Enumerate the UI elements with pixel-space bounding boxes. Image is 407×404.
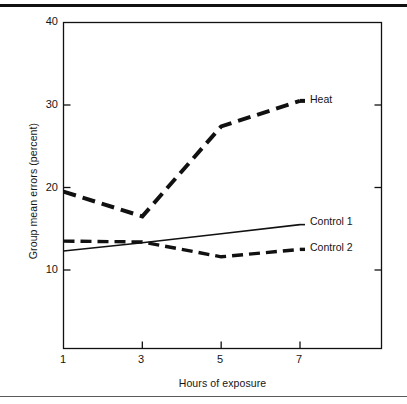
x-tick-label-7: 7 — [287, 353, 311, 365]
x-tick-label-1: 1 — [51, 353, 75, 365]
x-tick-label-5: 5 — [208, 353, 232, 365]
line-chart-plot — [0, 0, 407, 404]
series-line-heat — [64, 101, 301, 217]
plot-frame — [64, 23, 382, 349]
series-label-heat: Heat — [310, 93, 332, 105]
y-tick-label-20: 20 — [32, 181, 58, 193]
series-lines — [64, 101, 306, 257]
y-tick-label-40: 40 — [32, 15, 58, 27]
series-line-control-2 — [64, 241, 301, 257]
series-line-control-1 — [64, 225, 301, 251]
figure: Group mean errors (percent) Hours of exp… — [0, 0, 407, 404]
series-label-control-1: Control 1 — [310, 215, 353, 227]
x-axis-title: Hours of exposure — [63, 377, 382, 389]
y-tick-label-10: 10 — [32, 263, 58, 275]
series-label-control-2: Control 2 — [310, 241, 353, 253]
x-axis-ticks — [142, 342, 300, 349]
y-tick-label-30: 30 — [32, 98, 58, 110]
x-tick-label-3: 3 — [129, 353, 153, 365]
